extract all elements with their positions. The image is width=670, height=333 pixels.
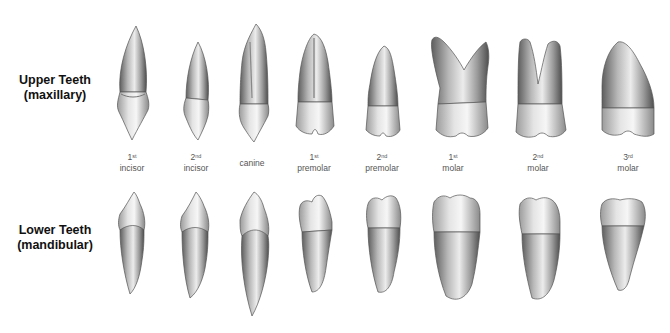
upper-third-molar-illustration: [596, 38, 658, 142]
tooth-name: premolar: [347, 163, 417, 174]
upper-first-molar-illustration: [428, 36, 492, 142]
lower-second-molar-illustration: [516, 194, 564, 304]
ordinal-suffix: st: [314, 153, 318, 159]
tooth-label-canine: canine: [217, 158, 287, 169]
upper-second-premolar-illustration: [362, 44, 404, 142]
ordinal-suffix: st: [132, 153, 136, 159]
tooth-name: incisor: [97, 163, 167, 174]
lower-second-premolar-illustration: [364, 192, 404, 296]
tooth-label-first-incisor: 1st incisor: [97, 152, 167, 174]
upper-canine-illustration: [234, 22, 274, 144]
ordinal-suffix: nd: [537, 153, 543, 159]
tooth-label-third-molar: 3rd molar: [593, 152, 663, 174]
tooth-name: canine: [217, 158, 287, 169]
lower-second-incisor-illustration: [174, 190, 214, 302]
row-label-upper-title: Upper Teeth: [0, 73, 110, 88]
row-label-upper-subtitle: (maxillary): [0, 88, 110, 103]
tooth-label-first-molar: 1st molar: [418, 152, 488, 174]
upper-first-premolar-illustration: [292, 32, 338, 142]
row-label-upper: Upper Teeth (maxillary): [0, 73, 110, 103]
upper-first-incisor-illustration: [108, 24, 158, 142]
lower-first-incisor-illustration: [112, 190, 152, 298]
lower-third-molar-illustration: [598, 194, 648, 294]
upper-second-molar-illustration: [512, 38, 568, 142]
tooth-name: molar: [503, 163, 573, 174]
tooth-name: premolar: [279, 163, 349, 174]
lower-first-molar-illustration: [430, 192, 482, 304]
lower-canine-illustration: [234, 190, 274, 320]
row-label-lower: Lower Teeth (mandibular): [0, 223, 110, 253]
lower-first-premolar-illustration: [296, 192, 336, 296]
ordinal-suffix: st: [453, 153, 457, 159]
tooth-label-first-premolar: 1st premolar: [279, 152, 349, 174]
ordinal-suffix: rd: [628, 153, 633, 159]
tooth-label-second-premolar: 2nd premolar: [347, 152, 417, 174]
tooth-label-second-molar: 2nd molar: [503, 152, 573, 174]
ordinal-suffix: nd: [195, 153, 201, 159]
upper-second-incisor-illustration: [176, 40, 216, 142]
tooth-name: molar: [593, 163, 663, 174]
ordinal-suffix: nd: [381, 153, 387, 159]
row-label-lower-title: Lower Teeth: [0, 223, 110, 238]
tooth-name: molar: [418, 163, 488, 174]
row-label-lower-subtitle: (mandibular): [0, 238, 110, 253]
